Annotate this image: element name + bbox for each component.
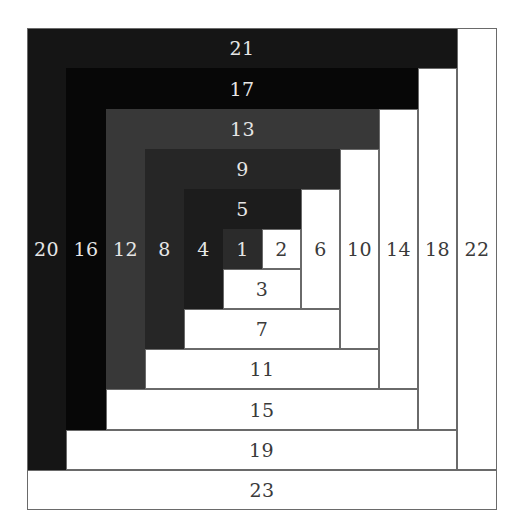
piece-label: 4	[197, 240, 210, 259]
piece-label: 18	[425, 240, 450, 259]
piece-12	[106, 149, 145, 389]
piece-label: 19	[249, 441, 274, 460]
piece-20	[27, 68, 66, 470]
piece-label: 20	[34, 240, 59, 259]
piece-label: 23	[249, 481, 274, 500]
piece-label: 5	[236, 200, 249, 219]
piece-label: 9	[236, 160, 249, 179]
piece-label: 1	[236, 240, 249, 259]
piece-label: 6	[314, 240, 327, 259]
piece-16	[66, 109, 106, 430]
piece-label: 13	[230, 120, 255, 139]
piece-label: 10	[347, 240, 372, 259]
piece-label: 8	[158, 240, 171, 259]
piece-label: 12	[113, 240, 138, 259]
piece-label: 3	[256, 280, 269, 299]
piece-label: 2	[275, 240, 288, 259]
piece-label: 16	[73, 240, 98, 259]
piece-label: 21	[229, 39, 254, 58]
piece-label: 7	[256, 320, 269, 339]
piece-label: 17	[229, 79, 254, 98]
piece-label: 14	[386, 240, 411, 259]
log-cabin-diagram: 1234567891011121314151617181920212223	[0, 0, 512, 527]
piece-label: 11	[249, 360, 274, 379]
piece-8	[145, 189, 184, 349]
piece-label: 15	[249, 400, 274, 419]
piece-label: 22	[464, 240, 489, 259]
